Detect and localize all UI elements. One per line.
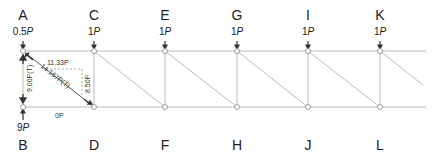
load-E: 1P — [159, 26, 172, 37]
diagonal-members — [23, 51, 423, 107]
node-label-G: G — [232, 7, 243, 23]
node-label-I: I — [306, 7, 310, 23]
force-AD-horizontal: 11.33P — [47, 59, 69, 66]
node-label-B: B — [18, 137, 27, 153]
load-I: 1P — [302, 26, 315, 37]
force-AD: 14.167P(T) — [39, 62, 72, 90]
reaction-B: 9P — [17, 122, 30, 133]
node-label-J: J — [305, 137, 312, 153]
truss-diagram: A C E G I K 0.5P 1P 1P 1P 1P 1P 9P B D F… — [0, 0, 432, 157]
node-label-F: F — [161, 137, 170, 153]
node-label-C: C — [89, 7, 99, 23]
node-label-H: H — [232, 137, 242, 153]
node-label-K: K — [375, 7, 385, 23]
load-K: 1P — [374, 26, 387, 37]
reaction-arrow — [21, 109, 25, 120]
load-A: 0.5P — [13, 26, 34, 37]
node-label-A: A — [18, 7, 28, 23]
load-C: 1P — [88, 26, 101, 37]
force-AB: 9.00P(T) — [26, 65, 34, 92]
force-BD: 0P — [55, 112, 64, 119]
force-AD-vertical: 8.50P — [84, 74, 91, 93]
node-label-D: D — [89, 137, 99, 153]
node-label-L: L — [376, 137, 384, 153]
node-label-E: E — [160, 7, 169, 23]
load-G: 1P — [231, 26, 244, 37]
load-arrows — [21, 41, 382, 49]
